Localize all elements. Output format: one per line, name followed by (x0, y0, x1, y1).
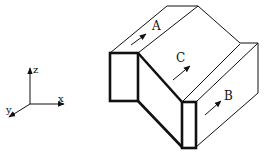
label-a: A (151, 19, 161, 33)
arrow-a-icon (131, 34, 146, 45)
arrow-c-icon (173, 66, 190, 80)
x-axis-label: x (58, 93, 64, 104)
label-b: B (224, 89, 233, 103)
y-axis-label: y (5, 104, 12, 115)
label-c: C (176, 51, 185, 65)
block-outline (110, 6, 258, 147)
y-axis (9, 104, 30, 117)
z-axis-label: z (33, 64, 38, 75)
diagram-canvas: z x y A C B (0, 0, 265, 155)
region-b: B (205, 89, 233, 115)
arrow-b-icon (205, 101, 221, 115)
section-box-right (182, 102, 196, 148)
section-box-left (110, 53, 138, 101)
region-c: C (173, 51, 190, 80)
coordinate-axes: z x y (5, 64, 64, 117)
